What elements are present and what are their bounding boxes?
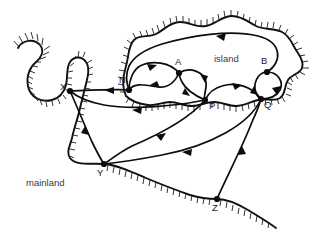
region-label-island: island — [214, 53, 239, 64]
edge-P-to-A — [179, 73, 205, 100]
edge-B-to-Q-path — [261, 72, 281, 99]
route-diagram-figure: X N A B P Q Y Z island mainland — [0, 0, 323, 231]
edge-Q-to-B-path — [255, 72, 267, 99]
node-label-X: X — [60, 81, 67, 92]
node-label-A: A — [175, 56, 182, 67]
edge-N-to-A-lower — [129, 73, 179, 90]
edge-N-to-X-path — [70, 90, 129, 91]
node-label-N: N — [119, 74, 126, 85]
node-label-Y: Y — [97, 167, 104, 178]
edge-Z-to-Q — [217, 99, 261, 199]
edge-N-to-A-lower-path — [129, 73, 179, 90]
node-label-Q: Q — [264, 99, 271, 110]
node-labels: X N A B P Q Y Z — [60, 55, 271, 213]
edge-B-to-Q — [261, 72, 281, 99]
node-dot-P[interactable] — [202, 97, 208, 103]
node-dot-X[interactable] — [67, 88, 73, 94]
edge-N-to-X-arrowhead — [104, 87, 114, 94]
edge-P-to-A-path — [179, 73, 205, 100]
node-label-P: P — [209, 100, 215, 111]
region-label-mainland: mainland — [26, 177, 65, 188]
node-dot-A[interactable] — [176, 70, 182, 76]
edge-A-to-N-upper-arrowhead — [147, 64, 157, 71]
node-dot-N[interactable] — [126, 87, 132, 93]
mainland-coast-outline — [18, 41, 276, 228]
edge-Q-to-P-arrowhead — [232, 83, 242, 90]
edge-N-to-X — [70, 87, 129, 94]
diagram-canvas: X N A B P Q Y Z island mainland — [0, 0, 323, 231]
edge-A-to-P-arrowhead — [200, 74, 208, 83]
mainland-coastline-group — [18, 41, 276, 228]
node-label-Z: Z — [212, 202, 218, 213]
node-label-B: B — [261, 55, 267, 66]
node-dot-B[interactable] — [264, 69, 270, 75]
node-markers — [67, 69, 270, 202]
edge-Z-to-Q-path — [217, 99, 261, 199]
